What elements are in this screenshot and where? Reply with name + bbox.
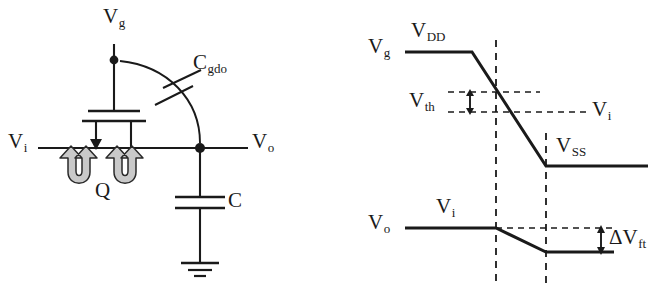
label-vi-output-level: Vi bbox=[436, 196, 455, 219]
label-cgdo: Cgdo bbox=[193, 52, 227, 75]
label-vo-waveform: Vo bbox=[368, 212, 390, 235]
overlap-capacitor-plate-lower bbox=[155, 86, 193, 105]
label-charge-q: Q bbox=[95, 180, 110, 201]
label-vss: VSS bbox=[556, 135, 586, 158]
label-vg-circuit: Vg bbox=[103, 6, 125, 29]
charge-arrow-left bbox=[60, 146, 97, 183]
label-vi-circuit: Vi bbox=[8, 131, 27, 154]
label-vg-waveform: Vg bbox=[368, 36, 390, 59]
label-vth: Vth bbox=[409, 90, 435, 113]
figure-canvas: Vg Vi Vo Cgdo C Q Vg VDD Vth Vi VSS Vo V… bbox=[0, 0, 666, 292]
label-delta-vft: ΔVft bbox=[609, 227, 646, 250]
label-vdd: VDD bbox=[411, 20, 445, 43]
threshold-voltage-arrow bbox=[466, 89, 474, 115]
charge-arrow-right bbox=[106, 146, 143, 183]
label-load-capacitor: C bbox=[228, 190, 242, 211]
label-vo-circuit: Vo bbox=[252, 131, 274, 154]
gate-voltage-trace bbox=[405, 52, 648, 166]
label-vi-reference: Vi bbox=[592, 99, 611, 122]
